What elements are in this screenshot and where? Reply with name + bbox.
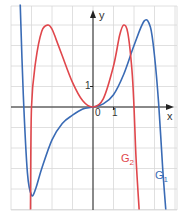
axes [11, 10, 174, 210]
g1-label: G1 [155, 170, 168, 184]
x-axis-label: x [167, 111, 173, 122]
g2-label-sub: 2 [130, 158, 134, 167]
g1-label-main: G [155, 169, 164, 181]
x-tick-one-label: 1 [112, 108, 118, 118]
g1-label-sub: 1 [164, 175, 168, 184]
g2-label: G2 [121, 153, 134, 167]
y-axis-label: y [99, 10, 105, 21]
origin-label: 0 [95, 108, 101, 118]
y-tick-one-label: 1 [85, 81, 91, 91]
curve-g2 [30, 25, 139, 210]
g2-label-main: G [121, 152, 130, 164]
